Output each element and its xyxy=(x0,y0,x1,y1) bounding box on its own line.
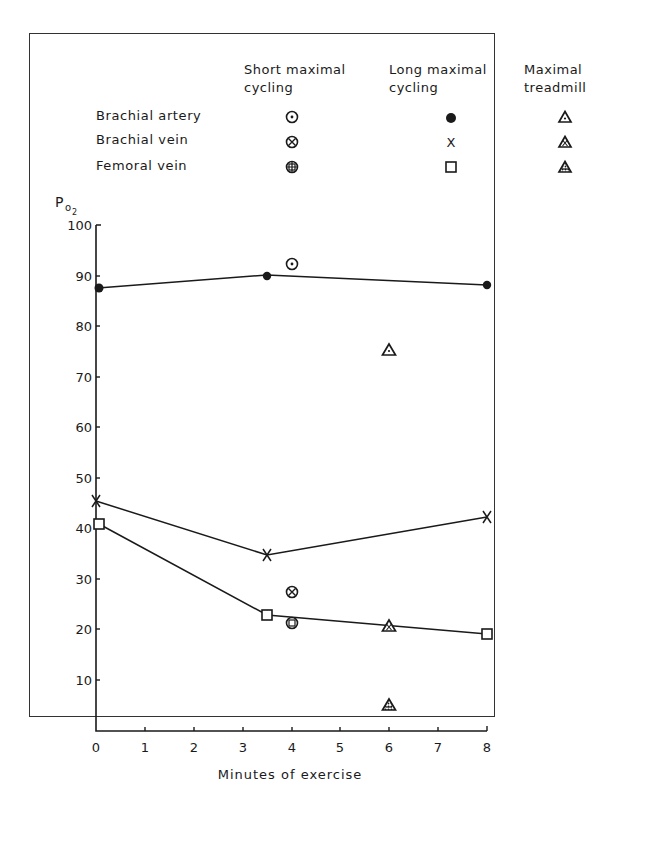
svg-text:100: 100 xyxy=(67,218,92,233)
svg-text:8: 8 xyxy=(483,740,491,755)
legend-symbol-circle-x-icon xyxy=(287,137,298,148)
svg-text:70: 70 xyxy=(75,370,92,385)
svg-text:4: 4 xyxy=(288,740,296,755)
svg-text:90: 90 xyxy=(75,269,92,284)
legend-symbol-open-square-icon xyxy=(446,162,456,172)
svg-text:80: 80 xyxy=(75,319,92,334)
legend-symbol-triangle-x-icon xyxy=(559,137,571,148)
svg-text:5: 5 xyxy=(336,740,344,755)
svg-text:0: 0 xyxy=(92,740,100,755)
point-brachial-artery-short xyxy=(287,259,298,270)
point-femoral-vein-short xyxy=(287,618,298,629)
axes-lines xyxy=(96,225,487,731)
svg-text:o: o xyxy=(65,202,71,213)
chart-svg: X P o 2 100 90 80 70 60 50 40 30 20 10 xyxy=(0,0,664,843)
svg-text:30: 30 xyxy=(75,572,92,587)
point-femoral-vein-treadmill xyxy=(383,699,396,710)
svg-text:10: 10 xyxy=(75,673,92,688)
series-brachial-artery-long xyxy=(95,272,492,293)
point-brachial-vein-short xyxy=(287,587,298,598)
svg-text:50: 50 xyxy=(75,471,92,486)
legend-symbol-x-cross-icon: X xyxy=(447,135,456,150)
svg-text:6: 6 xyxy=(385,740,393,755)
x-tick-labels: 0 1 2 3 4 5 6 7 8 xyxy=(92,740,491,755)
svg-text:20: 20 xyxy=(75,622,92,637)
svg-text:40: 40 xyxy=(75,521,92,536)
legend-symbol-filled-circle-icon xyxy=(446,113,456,123)
svg-text:3: 3 xyxy=(239,740,247,755)
legend-symbol-triangle-filled-pattern-icon xyxy=(559,162,571,173)
x-axis-title: Minutes of exercise xyxy=(218,767,363,782)
svg-text:2: 2 xyxy=(190,740,198,755)
svg-text:P: P xyxy=(55,194,63,210)
y-tick-labels: 100 90 80 70 60 50 40 30 20 10 xyxy=(67,218,92,688)
series-brachial-vein-long xyxy=(92,495,491,561)
svg-text:2: 2 xyxy=(72,208,77,217)
legend-symbol-circle-dot-icon xyxy=(287,112,298,123)
y-axis-title: P o 2 xyxy=(55,194,77,217)
legend-symbol-triangle-dot-icon xyxy=(559,112,571,123)
legend-symbol-circle-square-icon xyxy=(287,162,298,173)
svg-text:60: 60 xyxy=(75,420,92,435)
svg-text:7: 7 xyxy=(434,740,442,755)
svg-text:1: 1 xyxy=(141,740,149,755)
point-brachial-artery-treadmill xyxy=(383,344,396,355)
